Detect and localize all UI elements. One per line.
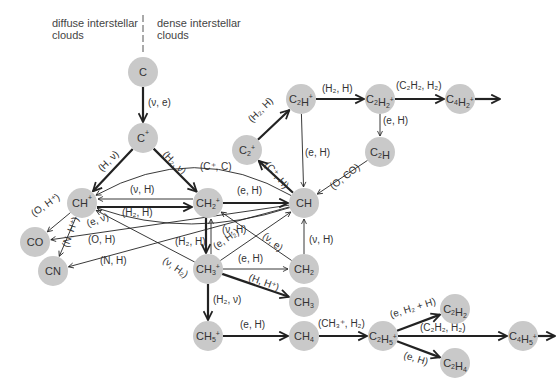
species-node-c2h5p: C2H5+ [368, 321, 398, 351]
reaction-label-ch-to-cn: (N, H) [100, 255, 127, 266]
species-label: CN [45, 265, 61, 277]
species-node-ch2: CH2 [289, 254, 319, 284]
reaction-label-chp-to-cn: (N, H⁺) [60, 215, 81, 249]
reaction-label-ch5p-to-ch4: (e, H) [240, 319, 265, 330]
species-node-c2p: C2+ [232, 135, 262, 165]
species-node-ch5p: CH5+ [193, 321, 223, 351]
reaction-label-cp-to-chp: (H, ν) [96, 148, 121, 173]
species-node-cp: C+ [128, 123, 158, 153]
reaction-labels: (ν, e)(H, ν)(H₂, ν)(ν, H)(H₂, H)(e, H)(C… [29, 80, 466, 367]
region-label-diffuse-line2: clouds [52, 29, 84, 41]
reaction-label-chp-to-co: (O, H⁺) [29, 191, 62, 218]
region-label-dense-line2: clouds [157, 29, 189, 41]
species-node-c2hp: C2H+ [286, 84, 316, 114]
reaction-label-ch2-to-ch: (ν, H) [309, 234, 333, 245]
reaction-label-ch3p-to-ch5p: (H₂, ν) [213, 294, 241, 305]
reaction-label-c2p-to-c2hp: (H₂, H) [246, 95, 275, 124]
species-node-c4h2p: C4H2+ [445, 84, 475, 114]
reaction-label-ch-to-chp: (C⁺, C) [200, 161, 232, 172]
reaction-label-ch2p-to-ch3p: (H₂, H) [175, 236, 206, 247]
species-node-ch3p: CH3+ [193, 254, 223, 284]
species-node-cn: CN [38, 256, 68, 286]
reaction-edges [47, 87, 555, 357]
reaction-label-ch4-to-c2h5p: (CH₃⁺, H₂) [318, 318, 365, 329]
species-node-ch2p: CH2+ [193, 188, 223, 218]
reaction-label-ch3p-to-ch2: (e, H) [238, 253, 263, 264]
reaction-label-ch-to-co: (O, H) [88, 234, 115, 245]
species-node-c2h4: C2H4 [440, 348, 470, 378]
species-node-c: C [128, 57, 158, 87]
region-label-dense-line1: dense interstellar [157, 17, 241, 29]
reaction-label-c2hp-to-ch: (e, H) [305, 147, 330, 158]
reaction-label-ch2p-to-ch: (e, H) [237, 185, 262, 196]
region-labels: diffuse interstellar clouds dense inters… [52, 15, 241, 55]
species-node-chp: CH+ [67, 188, 97, 218]
species-node-co: CO [20, 227, 50, 257]
reaction-label-ch-to-c2p: (C⁺, H) [262, 159, 291, 190]
reaction-label-ch3p-to-chp: (ν, H₂) [161, 255, 191, 280]
species-node-ch3: CH3 [289, 287, 319, 317]
reaction-label-ch3p-to-ch3: (H, H⁺) [247, 272, 281, 293]
reaction-label-chp-to-ch2p: (H₂, H) [122, 207, 153, 218]
species-label: CO [27, 236, 44, 248]
species-node-c2h2p: C2H2+ [365, 84, 395, 114]
species-node-ch4: CH4 [289, 321, 319, 351]
reaction-label-cp-to-ch2p: (H₂, ν) [161, 149, 189, 177]
reaction-label-c2h-to-ch: (O, CO) [327, 161, 361, 191]
species-label: C [139, 66, 147, 78]
reaction-label-c2h2p-to-c2h: (e, H) [383, 115, 408, 126]
reaction-label-ch2p-to-chp: (ν, H) [130, 184, 154, 195]
interstellar-carbon-chemistry-diagram: diffuse interstellar clouds dense inters… [0, 0, 560, 391]
reaction-label-c2h2p-to-c4h2p: (C₂H₂, H₂) [396, 80, 442, 91]
region-label-diffuse-line1: diffuse interstellar [52, 17, 138, 29]
species-node-ch: CH [289, 188, 319, 218]
reaction-label-c-to-cp: (ν, e) [148, 97, 171, 108]
reaction-label-c2hp-to-c2h2p: (H₂, H) [322, 83, 353, 94]
species-node-c4h5p: C4H5+ [508, 321, 538, 351]
species-node-c2h2: C2H2 [440, 294, 470, 324]
species-node-c2h: C2H [365, 137, 395, 167]
reaction-arrow-c2hp-to-ch [301, 114, 303, 187]
reaction-label-c2h5p-to-c2h2: (e, H₂ + H) [388, 296, 437, 320]
species-label: CH [296, 197, 312, 209]
reaction-label-c2h5p-to-c4h5p: (C₂H₂, H₂) [420, 322, 466, 333]
